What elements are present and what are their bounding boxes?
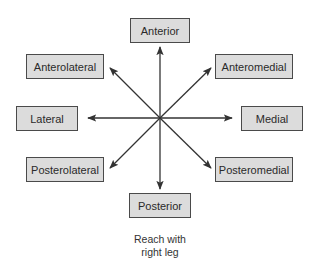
label-medial: Medial: [241, 106, 303, 131]
label-posterior: Posterior: [129, 193, 191, 218]
label-anterior: Anterior: [130, 18, 190, 43]
label-posteromedial: Posteromedial: [215, 157, 293, 182]
caption-line-1: Reach with: [120, 233, 200, 246]
label-posterolateral: Posterolateral: [26, 157, 104, 182]
label-anterolateral: Anterolateral: [26, 54, 104, 79]
caption-line-2: right leg: [120, 246, 200, 259]
label-lateral: Lateral: [16, 106, 78, 131]
arrow-posteromedial: [160, 118, 211, 168]
label-anteromedial: Anteromedial: [215, 54, 293, 79]
arrow-anteromedial: [160, 68, 211, 118]
caption: Reach with right leg: [120, 233, 200, 259]
arrow-posterolateral: [110, 118, 160, 168]
arrow-anterolateral: [110, 68, 160, 118]
diagram: Anterior Anterolateral Anteromedial Late…: [0, 0, 319, 269]
